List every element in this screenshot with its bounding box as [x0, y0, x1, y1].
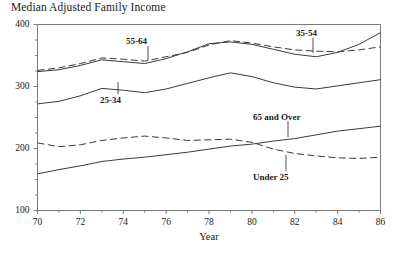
y-tick-label: 100 [4, 205, 30, 215]
x-tick-label: 78 [199, 217, 219, 227]
chart-page: Median Adjusted Family Income 1002003004… [0, 0, 403, 255]
x-tick-label: 84 [328, 217, 348, 227]
series-label-under-25: Under 25 [253, 172, 289, 182]
series-label-55-64: 55-64 [126, 36, 147, 46]
series-label-65-and-over: 65 and Over [253, 112, 301, 122]
x-axis-title: Year [179, 231, 239, 242]
x-tick-label: 70 [28, 217, 48, 227]
series-line-under-25 [38, 136, 381, 158]
data-series [38, 33, 381, 174]
y-tick-label: 400 [4, 19, 30, 29]
x-tick-label: 86 [371, 217, 391, 227]
series-label-35-54: 35-54 [296, 28, 317, 38]
y-tick-label: 200 [4, 143, 30, 153]
series-line-35-54 [38, 33, 381, 72]
axis-ticks [34, 25, 381, 215]
x-tick-label: 76 [156, 217, 176, 227]
annotation-leader-lines [118, 38, 313, 171]
axes [38, 25, 381, 211]
series-label-25-34: 25-34 [100, 95, 121, 105]
series-line-55-64 [38, 41, 381, 71]
x-tick-label: 72 [70, 217, 90, 227]
x-tick-label: 74 [113, 217, 133, 227]
y-tick-label: 300 [4, 81, 30, 91]
x-tick-label: 82 [285, 217, 305, 227]
series-line-65-and-over [38, 126, 381, 174]
x-tick-label: 80 [242, 217, 262, 227]
series-line-25-34 [38, 73, 381, 104]
